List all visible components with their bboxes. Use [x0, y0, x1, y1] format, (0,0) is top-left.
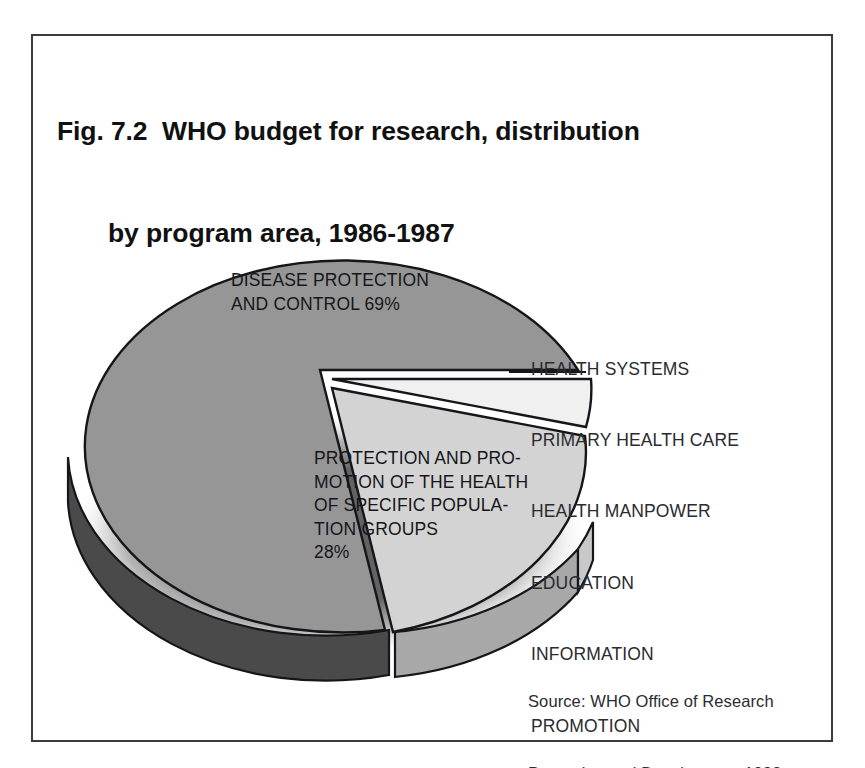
slice-label-population: PROTECTION AND PRO- MOTION OF THE HEALTH…	[314, 447, 528, 565]
source-note: Source: WHO Office of Research Promotion…	[528, 641, 781, 768]
callout-line-health-manpower: HEALTH MANPOWER	[531, 500, 739, 524]
callout-line-primary-health-care: PRIMARY HEALTH CARE	[531, 429, 739, 453]
figure-root: Fig. 7.2 WHO budget for research, distri…	[0, 0, 865, 768]
source-note-line-2: Promotion and Development 1988	[528, 761, 781, 768]
callout-line-health-systems: HEALTH SYSTEMS	[531, 358, 739, 382]
source-note-line-1: Source: WHO Office of Research	[528, 689, 781, 713]
callout-line-education: EDUCATION	[531, 572, 739, 596]
slice-label-disease: DISEASE PROTECTION AND CONTROL 69%	[231, 269, 429, 316]
